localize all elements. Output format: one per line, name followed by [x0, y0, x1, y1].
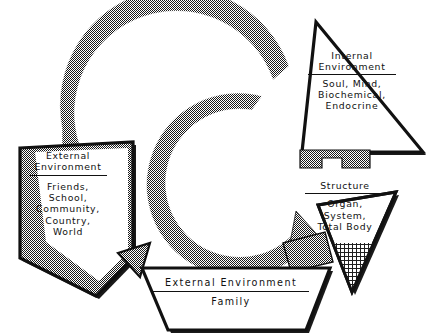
external-environment-left-detail: Friends, School, Community, Country, Wor… — [14, 181, 122, 238]
structure-heading: Structure — [296, 180, 394, 191]
external-environment-bottom-underline — [153, 291, 309, 292]
internal-environment-heading: Internal Environment — [296, 50, 408, 73]
internal-environment-detail: Soul, Mind, Biochemical, Endocrine — [296, 78, 408, 112]
internal-environment-underline — [308, 74, 396, 75]
external-environment-left-heading: External Environment — [14, 150, 122, 173]
structure-underline — [305, 193, 385, 194]
structure-detail: Organ, System, Total Body — [296, 198, 394, 232]
diagram-canvas: Internal Environment Soul, Mind, Biochem… — [0, 0, 426, 335]
external-environment-bottom-heading: External Environment — [148, 277, 314, 289]
external-environment-bottom-detail: Family — [148, 296, 314, 308]
structure-label: Structure Organ, System, Total Body — [296, 180, 394, 232]
external-environment-left-label: External Environment Friends, School, Co… — [14, 150, 122, 237]
external-environment-bottom-label: External Environment Family — [148, 277, 314, 308]
internal-environment-stem — [300, 150, 370, 168]
internal-environment-label: Internal Environment Soul, Mind, Biochem… — [296, 50, 408, 112]
external-environment-left-underline — [29, 175, 107, 176]
